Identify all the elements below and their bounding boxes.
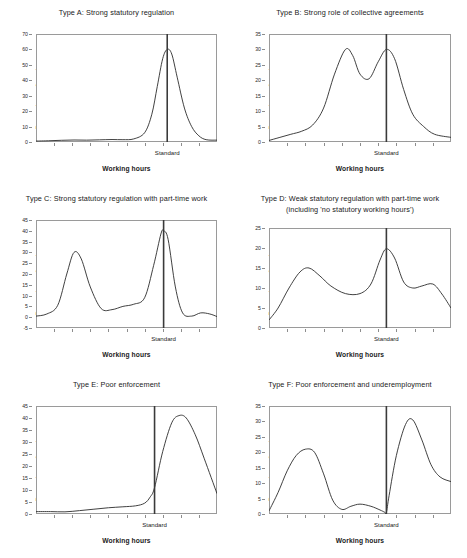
x-tick-mark — [415, 143, 416, 146]
y-tick-label: 15 — [22, 282, 28, 288]
x-tick-mark — [305, 329, 306, 332]
x-tick-mark — [360, 329, 361, 332]
x-tick-mark — [163, 143, 164, 146]
x-axis-label-e: Working hours — [36, 537, 217, 544]
y-tick-label: 5 — [25, 303, 28, 309]
plot-area-b: 05101520253035 Standard — [269, 34, 451, 142]
chart-title-e: Type E: Poor enforcement — [4, 380, 229, 391]
y-tick-label: 60 — [22, 46, 28, 52]
x-tick-mark — [360, 143, 361, 146]
y-tick-label: 5 — [258, 496, 261, 502]
y-tick-label: 30 — [255, 418, 261, 424]
x-axis-ticks-e — [36, 514, 217, 518]
y-tick-label: 15 — [255, 465, 261, 471]
x-tick-mark — [305, 515, 306, 518]
x-tick-mark — [305, 143, 306, 146]
y-tick-label: 20 — [255, 245, 261, 251]
curve-path — [36, 230, 217, 317]
x-tick-mark — [415, 515, 416, 518]
y-tick-label: 30 — [255, 46, 261, 52]
y-tick-label: 20 — [22, 463, 28, 469]
plot-area-f: 05101520253035 Standard — [269, 406, 451, 514]
y-tick-label: 5 — [258, 124, 261, 130]
chart-title-d-line2: (including 'no statutory working hours') — [286, 205, 414, 214]
y-tick-label: 0 — [25, 511, 28, 517]
y-tick-label: 30 — [22, 439, 28, 445]
x-tick-mark — [433, 515, 434, 518]
y-tick-label: 40 — [22, 77, 28, 83]
distribution-curve-e — [36, 406, 217, 514]
x-tick-mark — [342, 143, 343, 146]
y-tick-label: 35 — [22, 427, 28, 433]
y-tick-label: 25 — [255, 62, 261, 68]
x-tick-mark — [72, 329, 73, 332]
x-axis-label-c: Working hours — [36, 351, 217, 358]
x-tick-mark — [108, 143, 109, 146]
y-tick-label: 25 — [22, 260, 28, 266]
y-tick-label: 10 — [255, 108, 261, 114]
y-tick-label: 35 — [255, 403, 261, 409]
y-tick-label: 45 — [22, 217, 28, 223]
x-tick-mark — [287, 143, 288, 146]
x-tick-mark — [108, 515, 109, 518]
x-axis-label-f: Working hours — [269, 537, 451, 544]
x-tick-mark — [378, 515, 379, 518]
x-tick-mark — [72, 143, 73, 146]
chart-title-d: Type D: Weak statutory regulation with p… — [237, 194, 463, 215]
x-tick-mark — [163, 329, 164, 332]
x-axis-ticks-d — [269, 328, 451, 332]
distribution-curve-f — [269, 406, 451, 514]
chart-panel-c: Type C: Strong statutory regulation with… — [0, 186, 233, 372]
y-tick-label: 70 — [22, 31, 28, 37]
distribution-curve-b — [269, 34, 451, 142]
distribution-curve-c — [36, 220, 217, 328]
x-tick-mark — [90, 329, 91, 332]
standard-line-label-c: Standard — [151, 335, 176, 342]
x-tick-mark — [324, 515, 325, 518]
x-tick-mark — [54, 329, 55, 332]
y-tick-label: 20 — [22, 108, 28, 114]
x-tick-mark — [360, 515, 361, 518]
curve-path — [269, 48, 451, 140]
x-tick-mark — [324, 329, 325, 332]
x-tick-mark — [199, 143, 200, 146]
y-tick-label: 5 — [258, 305, 261, 311]
x-tick-mark — [378, 143, 379, 146]
plot-area-d: 0510152025 Standard — [269, 228, 451, 328]
x-tick-mark — [433, 143, 434, 146]
chart-title-f: Type F: Poor enforcement and underemploy… — [237, 380, 463, 391]
y-tick-label: 15 — [255, 93, 261, 99]
x-tick-mark — [396, 329, 397, 332]
y-tick-label: 20 — [255, 449, 261, 455]
x-axis-label-d: Working hours — [269, 351, 451, 358]
y-tick-label: 35 — [255, 31, 261, 37]
curve-path — [36, 415, 217, 512]
figure-panel-grid: Type A: Strong statutory regulation Perc… — [0, 0, 467, 558]
y-tick-label: 10 — [255, 480, 261, 486]
x-tick-mark — [199, 515, 200, 518]
x-tick-mark — [287, 329, 288, 332]
chart-panel-b: Type B: Strong role of collective agreem… — [233, 0, 467, 186]
y-tick-label: -5 — [23, 325, 28, 331]
distribution-curve-d — [269, 228, 451, 328]
y-tick-label: 25 — [22, 451, 28, 457]
x-axis-ticks-b — [269, 142, 451, 146]
y-tick-label: 30 — [22, 249, 28, 255]
x-tick-mark — [433, 329, 434, 332]
x-tick-mark — [145, 515, 146, 518]
y-tick-label: 10 — [22, 124, 28, 130]
x-tick-mark — [342, 515, 343, 518]
plot-area-c: -5051015202530354045 Standard — [36, 220, 217, 328]
x-tick-mark — [181, 329, 182, 332]
y-tick-label: 35 — [22, 239, 28, 245]
y-tick-label: 0 — [258, 511, 261, 517]
x-tick-mark — [108, 329, 109, 332]
y-tick-label: 10 — [255, 285, 261, 291]
curve-path — [36, 49, 217, 141]
y-tick-label: 25 — [255, 225, 261, 231]
standard-line-label-b: Standard — [374, 149, 399, 156]
x-tick-mark — [342, 329, 343, 332]
x-tick-mark — [378, 329, 379, 332]
y-tick-label: 10 — [22, 487, 28, 493]
y-tick-label: 5 — [25, 499, 28, 505]
